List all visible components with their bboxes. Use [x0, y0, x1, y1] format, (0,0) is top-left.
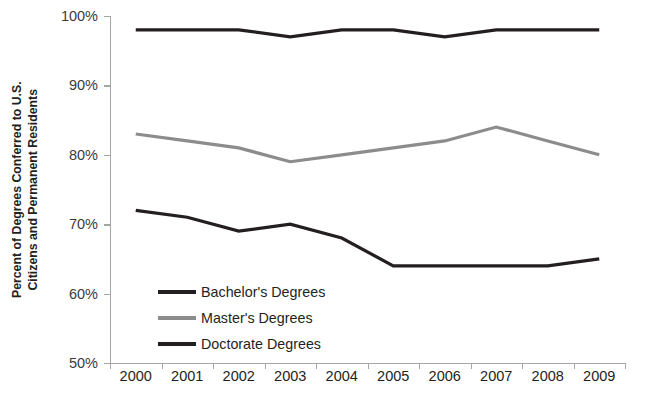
y-axis-title: Percent of Degrees Conferred to U.S. Cit…	[2, 0, 48, 380]
legend-item[interactable]: Bachelor's Degrees	[158, 281, 325, 303]
x-tick-label: 2004	[326, 368, 358, 384]
x-tick-label: 2009	[583, 368, 615, 384]
legend-swatch-icon	[158, 290, 196, 293]
y-tick-label: 50%	[69, 355, 98, 371]
y-tick-label: 90%	[69, 77, 98, 93]
legend-swatch-icon	[158, 316, 196, 319]
legend: Bachelor's DegreesMaster's DegreesDoctor…	[158, 281, 325, 355]
x-tick-label: 2005	[377, 368, 409, 384]
legend-swatch-icon	[158, 342, 196, 345]
y-tick-label: 70%	[69, 216, 98, 232]
y-axis-title-line-2: Citizens and Permanent Residents	[25, 82, 41, 299]
chart-figure: Percent of Degrees Conferred to U.S. Cit…	[0, 0, 645, 415]
series-line	[136, 210, 600, 266]
legend-item-label: Doctorate Degrees	[201, 336, 321, 352]
series-line	[136, 127, 600, 162]
x-tick-label: 2000	[120, 368, 152, 384]
legend-item-label: Master's Degrees	[201, 310, 313, 326]
legend-item-label: Bachelor's Degrees	[201, 284, 325, 300]
y-axis-title-line-1: Percent of Degrees Conferred to U.S.	[9, 82, 25, 299]
cut-off-caption	[0, 406, 645, 415]
x-tick-label: 2003	[274, 368, 306, 384]
x-axis-tick-labels: 2000200120022003200420052006200720082009	[110, 368, 625, 392]
legend-item[interactable]: Doctorate Degrees	[158, 333, 325, 355]
y-axis-tick-labels: 50%60%70%80%90%100%	[48, 0, 104, 380]
x-tick-label: 2001	[171, 368, 203, 384]
y-tick-label: 60%	[69, 286, 98, 302]
x-tick-label: 2008	[532, 368, 564, 384]
x-tick-label: 2006	[429, 368, 461, 384]
x-tick-mark	[625, 363, 626, 369]
legend-item[interactable]: Master's Degrees	[158, 307, 325, 329]
y-tick-label: 100%	[61, 8, 98, 24]
x-tick-label: 2007	[480, 368, 512, 384]
x-tick-label: 2002	[223, 368, 255, 384]
series-line	[136, 30, 600, 37]
y-tick-label: 80%	[69, 147, 98, 163]
